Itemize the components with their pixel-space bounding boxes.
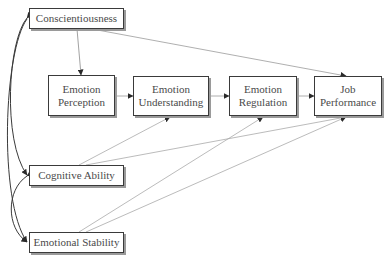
- node-job-performance: Job Performance: [314, 76, 382, 116]
- node-emotion-perception: Emotion Perception: [48, 75, 115, 116]
- node-cognitive-ability: Cognitive Ability: [29, 165, 124, 186]
- edges-layer: [0, 0, 388, 263]
- node-conscientiousness: Conscientiousness: [29, 8, 124, 29]
- correlation-cognitive-ability-emotional-stability: [11, 176, 27, 242]
- edge-emotional-stability-to-job-performance: [86, 117, 346, 232]
- edge-conscientiousness-to-emotion-perception: [77, 29, 81, 75]
- node-label: Emotion Understanding: [139, 83, 204, 109]
- node-label: Emotion Perception: [58, 83, 105, 109]
- correlation-conscientiousness-cognitive-ability: [10, 18, 27, 175]
- node-emotion-regulation: Emotion Regulation: [229, 76, 297, 116]
- correlation-conscientiousness-emotional-stability: [7, 19, 27, 242]
- node-label: Emotional Stability: [34, 236, 120, 249]
- node-label: Cognitive Ability: [38, 169, 115, 182]
- node-label: Emotion Regulation: [239, 83, 287, 109]
- node-emotion-understanding: Emotion Understanding: [133, 76, 209, 116]
- path-diagram: Conscientiousness Emotion Perception Emo…: [0, 0, 388, 263]
- node-emotional-stability: Emotional Stability: [29, 232, 124, 253]
- edge-conscientiousness-to-job-performance: [92, 29, 346, 76]
- node-label: Conscientiousness: [36, 12, 117, 25]
- node-label: Job Performance: [320, 83, 376, 109]
